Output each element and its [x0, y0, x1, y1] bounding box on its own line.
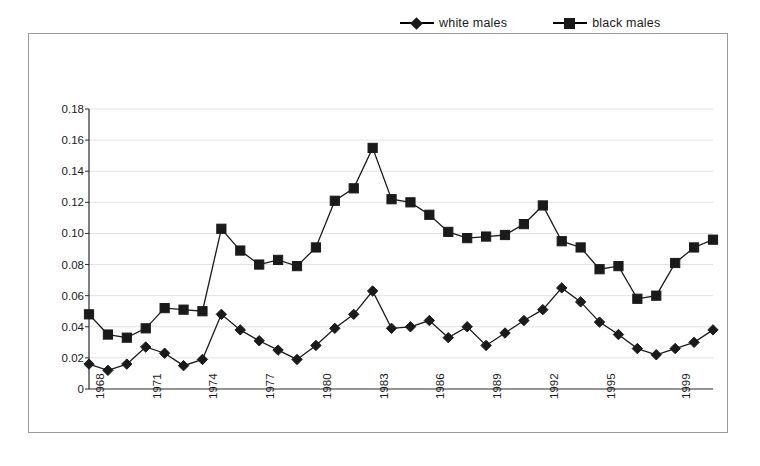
- x-tick-label: 1974: [207, 373, 219, 399]
- x-tick-label: 1999: [680, 373, 692, 399]
- legend-label-white-males: white males: [439, 16, 507, 30]
- chart-figure-frame: 0.180.160.140.120.100.080.060.040.020 19…: [28, 33, 728, 433]
- chart-legend: white males black males: [400, 12, 660, 34]
- x-tick-label: 1977: [264, 373, 276, 399]
- x-tick-label: 1989: [491, 373, 503, 399]
- x-tick-label: 1968: [94, 373, 106, 399]
- x-tick-label: 1983: [378, 373, 390, 399]
- legend-label-black-males: black males: [592, 16, 660, 30]
- x-tick-label: 1971: [151, 373, 163, 399]
- legend-line-swatch-black-males: [553, 17, 587, 29]
- diamond-marker-icon: [410, 17, 423, 30]
- x-tick-label: 1986: [434, 373, 446, 399]
- x-tick-label: 1992: [548, 373, 560, 399]
- legend-item-white-males: white males: [400, 16, 507, 30]
- x-axis-tick-labels: 1968197119741977198019831986198919921995…: [29, 34, 729, 434]
- x-tick-label: 1995: [605, 373, 617, 399]
- square-marker-icon: [564, 18, 575, 29]
- x-tick-label: 1980: [321, 373, 333, 399]
- legend-line-swatch-white-males: [400, 17, 434, 29]
- plot-area: 0.180.160.140.120.100.080.060.040.020 19…: [29, 34, 729, 434]
- legend-item-black-males: black males: [553, 16, 660, 30]
